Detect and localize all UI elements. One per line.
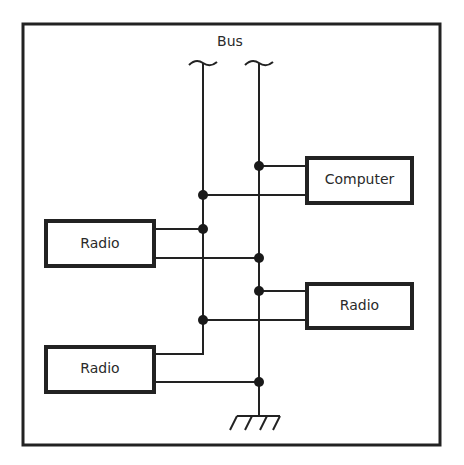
radio-label-right: Radio xyxy=(307,297,412,313)
computer-label: Computer xyxy=(307,171,412,187)
radio-label-left-top: Radio xyxy=(46,235,154,251)
ground-icon xyxy=(230,416,280,430)
radio-label-left-bottom: Radio xyxy=(46,360,154,376)
bus-diagram xyxy=(0,0,464,465)
bus-label: Bus xyxy=(200,33,260,49)
